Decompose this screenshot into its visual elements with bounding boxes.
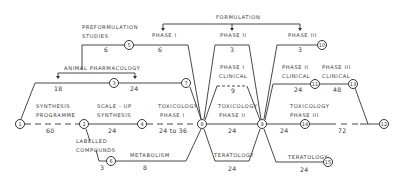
preformulation-label-line1: PREFORMULATION bbox=[82, 24, 138, 31]
duration-animal-right: 24 bbox=[130, 85, 138, 92]
node-5: 5 bbox=[124, 40, 134, 50]
animal-pharmacology-label: ANIMAL PHARMACOLOGY bbox=[64, 65, 140, 72]
phase3-clinical-line1: PHASE III bbox=[322, 64, 351, 71]
duration-tox2: 24 bbox=[228, 127, 236, 134]
node-1: 1 bbox=[15, 119, 25, 129]
duration-labelled: 3 bbox=[100, 164, 104, 171]
formulation-label: FORMULATION bbox=[216, 14, 260, 21]
tox3-label-line2: PHASE III bbox=[290, 112, 319, 119]
node-11: 11 bbox=[310, 79, 320, 89]
duration-animal-left: 18 bbox=[54, 85, 62, 92]
node-14: 14 bbox=[300, 119, 310, 129]
duration-tox3-dashed: 72 bbox=[338, 127, 346, 134]
node-3: 3 bbox=[109, 78, 119, 88]
duration-metabolism: 8 bbox=[143, 164, 147, 171]
phase2-clinical-line2: CLINICAL bbox=[282, 73, 310, 80]
phase2-clinical-line1: PHASE II bbox=[282, 64, 309, 71]
phase1-clinical-line1: PHASE I bbox=[220, 64, 245, 71]
duration-scaleup: 24 bbox=[108, 127, 116, 134]
tox2-label-line2: PHASE II bbox=[219, 112, 246, 119]
node-13: 13 bbox=[348, 79, 358, 89]
scaleup-label-line1: SCALE - UP bbox=[97, 103, 132, 110]
teratology2-label: TERATOLOGY bbox=[288, 154, 328, 161]
phase3-clinical-line2: CLINICAL bbox=[322, 73, 350, 80]
node-7: 7 bbox=[181, 78, 191, 88]
duration-phase3-clinical: 48 bbox=[333, 86, 341, 93]
phase1-clinical-line2: CLINICAL bbox=[219, 73, 247, 80]
phase1-label: PHASE I bbox=[152, 32, 177, 39]
node-4: 4 bbox=[137, 119, 147, 129]
phase3-label: PHASE III bbox=[288, 32, 317, 39]
tox2-label-line1: TOXICOLOGY bbox=[218, 103, 257, 110]
duration-phase1-form: 6 bbox=[158, 46, 162, 53]
synthesis-label-line1: SYNTHESIS bbox=[36, 103, 70, 110]
tox1-label-line2: PHASE I bbox=[160, 112, 185, 119]
labelled-label-line2: COMPOUNDS bbox=[76, 147, 116, 154]
metabolism-label: METABOLISM bbox=[130, 152, 170, 159]
node-12: 12 bbox=[379, 119, 389, 129]
tox3-label-line1: TOXICOLOGY bbox=[290, 103, 329, 110]
duration-phase3-form: 3 bbox=[298, 46, 302, 53]
duration-preform: 6 bbox=[104, 46, 108, 53]
duration-tox1: 24 to 36 bbox=[159, 127, 187, 134]
node-9: 9 bbox=[257, 119, 267, 129]
diagram-lines bbox=[0, 0, 402, 184]
duration-tox3: 24 bbox=[280, 127, 288, 134]
network-diagram: FORMULATION PHASE I PHASE II PHASE III P… bbox=[0, 0, 402, 184]
node-8: 8 bbox=[197, 119, 207, 129]
node-15: 15 bbox=[323, 157, 333, 167]
tox1-label-line1: TOXICOLOGY bbox=[158, 103, 197, 110]
duration-phase2-clinical: 24 bbox=[294, 86, 302, 93]
duration-synthesis: 60 bbox=[46, 127, 54, 134]
phase2-label: PHASE II bbox=[220, 32, 247, 39]
duration-teratology2: 24 bbox=[300, 166, 308, 173]
synthesis-label-line2: PROGRAMME bbox=[36, 112, 75, 119]
preformulation-label-line2: STUDIES bbox=[82, 33, 109, 40]
node-2: 2 bbox=[79, 119, 89, 129]
node-6: 6 bbox=[106, 156, 116, 166]
scaleup-label-line2: SYNTHESIS bbox=[97, 112, 131, 119]
duration-phase2-form: 3 bbox=[230, 46, 234, 53]
labelled-label-line1: LABELLED bbox=[76, 138, 107, 145]
node-10: 10 bbox=[317, 40, 327, 50]
duration-teratology1: 24 bbox=[228, 165, 236, 172]
teratology1-label: TERATOLOGY bbox=[214, 152, 254, 159]
duration-phase1-clinical: 9 bbox=[231, 87, 235, 94]
